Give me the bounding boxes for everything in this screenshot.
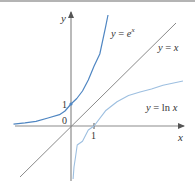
y-tick-label-1: 1 <box>62 99 67 110</box>
x-axis-label: x <box>177 131 183 143</box>
origin-label: 0 <box>62 115 67 126</box>
x-tick-label-1: 1 <box>91 130 96 141</box>
ln-label: y = ln x <box>145 102 178 113</box>
figure-frame: y x 0 1 1 y = ex y = x y = ln x <box>0 0 195 186</box>
exp-label: y = ex <box>110 26 136 39</box>
y-axis-label: y <box>60 12 66 24</box>
identity-line <box>20 23 176 177</box>
exp-curve <box>14 15 109 124</box>
graph-canvas: y x 0 1 1 y = ex y = x y = ln x <box>0 0 195 186</box>
identity-label: y = x <box>157 42 179 53</box>
ln-curve <box>73 81 183 179</box>
